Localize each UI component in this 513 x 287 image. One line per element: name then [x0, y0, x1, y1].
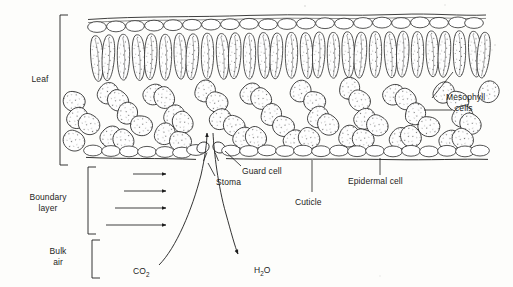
bulk-air-bracket: [92, 240, 100, 278]
leaf-bracket-label: Leaf: [20, 74, 60, 85]
palisade-mesophyll-row: [89, 31, 491, 82]
diagram-canvas: Leaf Boundary layer Bulk air Mesophyll c…: [0, 0, 513, 287]
boundary-layer-bracket-label-line1: Boundary: [12, 192, 84, 203]
leaf-tissue-group: [59, 14, 504, 161]
epidermal-cell-label: Epidermal cell: [348, 176, 403, 187]
boundary-layer-bracket: [88, 167, 96, 234]
upper-epidermis-row: [88, 17, 484, 32]
lower-cuticle-line: [86, 157, 488, 159]
spongy-mesophyll-region: [59, 74, 504, 155]
guard-cell-label: Guard cell: [242, 166, 282, 177]
co2-label: CO2: [128, 255, 150, 280]
h2o-label: H2O: [249, 254, 271, 279]
co2-label-text: CO: [133, 266, 146, 276]
mesophyll-cells-label-line1: Mesophyll: [446, 92, 485, 103]
stoma-label: Stoma: [216, 177, 241, 188]
mesophyll-cells-label-line2: cells: [455, 103, 473, 114]
cuticle-label: Cuticle: [295, 197, 322, 208]
h2o-label-text-o: O: [264, 265, 271, 275]
stoma-leader: [208, 163, 215, 176]
bulk-air-bracket-label-line2: air: [32, 257, 84, 268]
bulk-air-bracket-label-line1: Bulk: [32, 246, 84, 257]
boundary-layer-arrows: [106, 174, 166, 225]
stoma-pore: [204, 153, 219, 162]
lower-epidermis-right: [222, 145, 490, 157]
leaf-cross-section-illustration: [0, 0, 513, 287]
co2-label-subscript: 2: [146, 270, 150, 277]
boundary-layer-bracket-label-line2: layer: [12, 203, 84, 214]
